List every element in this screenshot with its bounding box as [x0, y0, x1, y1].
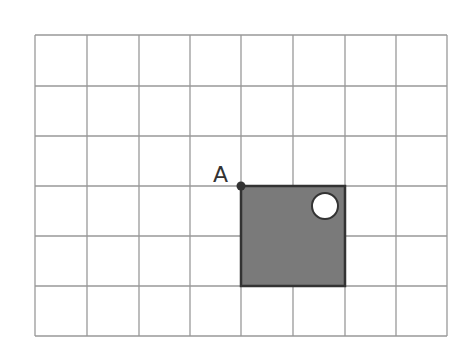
point-a-marker [237, 182, 246, 191]
point-a-label: A [213, 162, 228, 187]
hole-circle [312, 193, 338, 219]
grid-diagram: A [0, 0, 466, 357]
